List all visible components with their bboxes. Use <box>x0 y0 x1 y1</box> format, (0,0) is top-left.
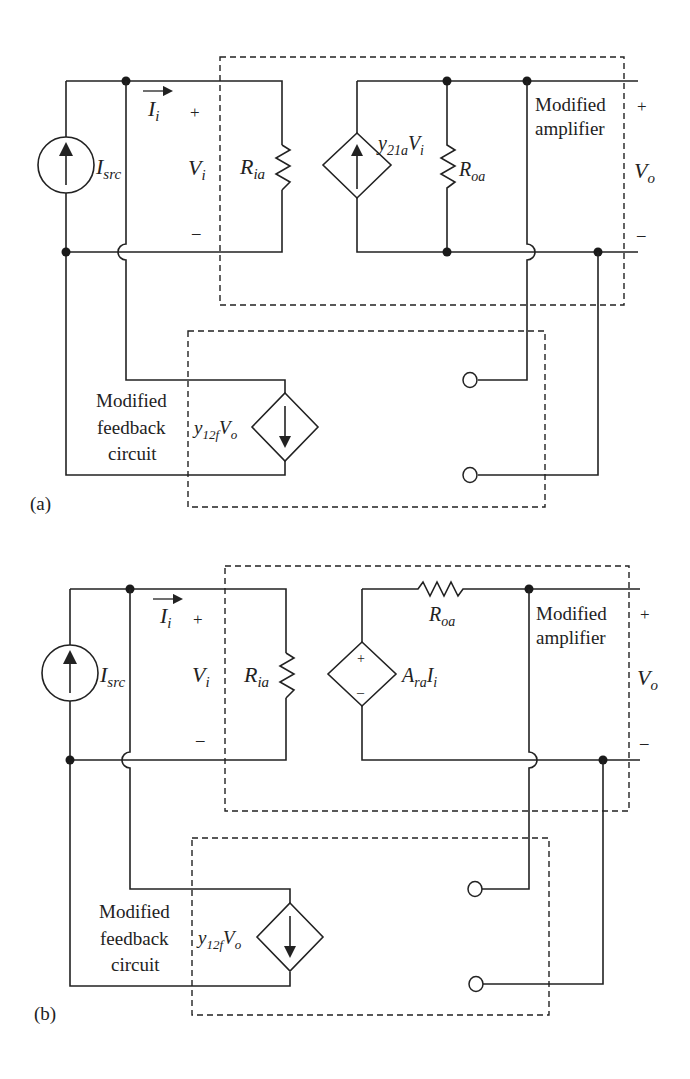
label-vi: Vi <box>188 155 206 183</box>
svg-text:–: – <box>356 685 365 700</box>
feedback-label-line3: circuit <box>111 954 160 975</box>
label-isrc: Isrc <box>99 662 125 690</box>
feedback-box <box>192 838 549 1015</box>
label-minus: – <box>195 730 205 749</box>
dependent-voltage-source-icon: + – <box>328 642 396 706</box>
label-roa: Roa <box>458 158 485 184</box>
panel-b: + – Isrc Ii + Vi – Ria AraIi Roa Modifie… <box>34 566 658 1025</box>
resistor-ria-icon <box>280 653 294 698</box>
feedback-input-wire <box>118 81 285 393</box>
current-source-icon <box>42 645 98 701</box>
terminal-icon <box>468 882 482 897</box>
label-vo-plus: + <box>640 605 650 624</box>
amplifier-label-line2: amplifier <box>536 627 606 648</box>
label-plus: + <box>190 103 200 122</box>
output-sense-wire <box>482 589 537 889</box>
label-ii: Ii <box>147 96 160 124</box>
resistor-roa-icon <box>362 582 640 596</box>
resistor-ria-icon <box>276 145 290 190</box>
amplifier-label-line1: Modified <box>535 94 606 115</box>
label-ii: Ii <box>159 603 172 631</box>
output-sense-wire <box>478 81 535 380</box>
node-dot <box>443 248 452 257</box>
amplifier-label-line2: amplifier <box>535 118 605 139</box>
node-dot <box>62 248 71 257</box>
feedback-label-line3: circuit <box>108 443 157 464</box>
label-minus: – <box>191 223 201 242</box>
label-plus: + <box>193 610 203 629</box>
feedback-current-source-icon <box>257 903 323 971</box>
feedback-box <box>188 331 545 507</box>
feedback-label-line1: Modified <box>99 901 170 922</box>
feedback-input-wire <box>122 589 290 903</box>
label-fb-source: y12fVo <box>192 417 238 442</box>
node-dot <box>443 77 452 86</box>
amplifier-label-line1: Modified <box>536 603 607 624</box>
feedback-current-source-icon <box>252 393 318 461</box>
feedback-label-line1: Modified <box>96 390 167 411</box>
label-vo: Vo <box>634 158 655 186</box>
label-vo-plus: + <box>637 97 647 116</box>
label-isrc: Isrc <box>95 154 121 182</box>
label-ria: Ria <box>239 154 265 182</box>
output-return-wire <box>482 760 603 984</box>
label-dep-source: AraIi <box>400 664 437 690</box>
panel-label-b: (b) <box>34 1003 56 1025</box>
terminal-icon <box>463 468 477 483</box>
node-dot <box>66 756 75 765</box>
current-source-icon <box>38 137 94 193</box>
feedback-label-line2: feedback <box>97 417 166 438</box>
label-vo: Vo <box>637 665 658 693</box>
label-vo-minus: – <box>639 733 649 752</box>
left-wire <box>70 589 290 986</box>
panel-label-a: (a) <box>30 493 51 515</box>
label-vi: Vi <box>192 662 210 690</box>
label-roa: Roa <box>428 603 455 629</box>
terminal-icon <box>463 373 477 388</box>
left-wire <box>66 81 285 475</box>
label-fb-source: y12fVo <box>196 927 242 952</box>
label-vo-minus: – <box>636 225 646 244</box>
svg-text:+: + <box>357 651 365 666</box>
feedback-label-line2: feedback <box>100 928 169 949</box>
circuit-figure: Isrc Ii + Vi – Ria y21aVi Roa Modified a… <box>0 0 690 1079</box>
panel-a: Isrc Ii + Vi – Ria y21aVi Roa Modified a… <box>30 57 655 515</box>
resistor-roa-icon <box>441 81 455 252</box>
label-dep-source: y21aVi <box>376 132 424 158</box>
label-ria: Ria <box>243 662 269 690</box>
terminal-icon <box>469 977 483 992</box>
output-return-wire <box>478 252 598 475</box>
